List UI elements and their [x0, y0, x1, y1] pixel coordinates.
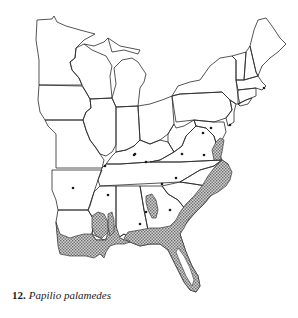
- record-dot: [104, 165, 107, 168]
- record-dot: [145, 211, 148, 214]
- record-dot: [210, 127, 213, 130]
- record-dot: [169, 209, 172, 212]
- state-connecticut: [238, 88, 256, 104]
- record-dot: [161, 183, 164, 186]
- record-dot: [203, 154, 206, 157]
- state-michigan-upper: [84, 38, 140, 54]
- state-west-virginia: [168, 120, 196, 152]
- figure-number: 12.: [12, 289, 26, 301]
- record-dot: [139, 223, 142, 226]
- state-massachusetts: [236, 76, 266, 90]
- record-dots: [72, 87, 266, 226]
- state-wisconsin: [70, 44, 112, 99]
- record-dot: [107, 194, 110, 197]
- record-dot: [229, 124, 232, 127]
- state-illinois: [83, 98, 116, 156]
- state-iowa: [38, 85, 91, 120]
- state-ohio: [138, 96, 174, 144]
- state-new-jersey: [226, 100, 236, 126]
- range-ms-lobe: [92, 212, 108, 238]
- state-arkansas: [52, 170, 102, 210]
- state-virginia: [150, 126, 222, 162]
- figure-caption: 12.Papilio palamedes: [12, 289, 111, 301]
- species-name: Papilio palamedes: [29, 289, 111, 301]
- state-maine: [250, 18, 286, 76]
- state-minnesota: [36, 16, 95, 85]
- range-georgia-patch: [146, 194, 158, 218]
- range-atlantic-coast: [124, 160, 232, 292]
- record-dot: [181, 153, 184, 156]
- record-dot: [175, 177, 178, 180]
- state-tennessee: [98, 160, 222, 186]
- record-dot: [145, 161, 148, 164]
- range-map: [0, 0, 298, 318]
- record-dot: [263, 87, 266, 90]
- range-delmarva: [212, 138, 224, 160]
- state-long-island: [238, 98, 252, 106]
- state-missouri: [45, 120, 104, 168]
- state-new-york: [172, 56, 240, 104]
- record-dot: [72, 187, 75, 190]
- record-dot: [133, 154, 136, 157]
- record-dot: [202, 132, 205, 135]
- state-indiana: [116, 106, 140, 152]
- state-michigan-lower: [112, 58, 146, 107]
- state-pennsylvania: [172, 92, 232, 122]
